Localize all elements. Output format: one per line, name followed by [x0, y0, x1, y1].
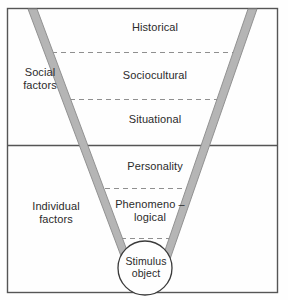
figure-root: Social factors Individual factors Histor…	[0, 0, 288, 300]
figure-canvas	[0, 0, 288, 300]
stimulus-object-circle	[118, 241, 172, 295]
